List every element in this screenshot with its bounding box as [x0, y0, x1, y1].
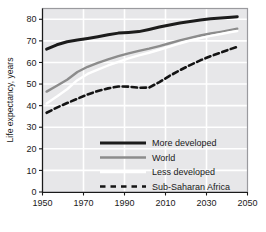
x-tick-label: 1990 [114, 198, 134, 208]
life-expectancy-chart: 80706050403020100 1950197019902010203020… [0, 0, 266, 232]
x-tick-label: 2010 [155, 198, 175, 208]
y-axis-tick-labels: 80706050403020100 [26, 14, 36, 197]
y-tick-label: 20 [26, 144, 36, 154]
legend-label-sub-saharan-africa: Sub-Saharan Africa [152, 182, 230, 192]
x-axis-tick-labels: 195019701990201020302050 [32, 198, 257, 208]
y-tick-label: 0 [31, 187, 36, 197]
y-tick-label: 80 [26, 14, 36, 24]
legend-label-more-developed: More developed [152, 138, 217, 148]
y-tick-label: 50 [26, 79, 36, 89]
y-tick-label: 30 [26, 122, 36, 132]
x-tick-label: 1970 [73, 198, 93, 208]
x-tick-label: 2050 [237, 198, 257, 208]
y-tick-label: 10 [26, 166, 36, 176]
legend-label-less-developed: Less developed [152, 167, 215, 177]
y-tick-label: 70 [26, 36, 36, 46]
y-tick-label: 60 [26, 58, 36, 68]
chart-canvas: 80706050403020100 1950197019902010203020… [0, 0, 266, 232]
legend-label-world: World [152, 153, 175, 163]
y-tick-label: 40 [26, 101, 36, 111]
x-tick-label: 1950 [32, 198, 52, 208]
y-axis-title: Life expectancy, years [5, 58, 15, 143]
x-tick-label: 2030 [196, 198, 216, 208]
